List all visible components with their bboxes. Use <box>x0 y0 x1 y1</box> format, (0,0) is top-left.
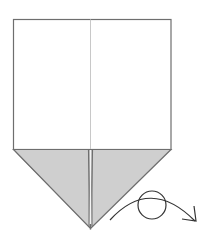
turn-over-arc <box>110 198 195 221</box>
paper-upper-face <box>14 20 172 150</box>
turn-over-circle <box>138 191 166 219</box>
left-folded-flap-edge <box>14 150 91 229</box>
origami-diagram <box>0 0 207 240</box>
turn-over-arrowhead <box>182 206 196 221</box>
